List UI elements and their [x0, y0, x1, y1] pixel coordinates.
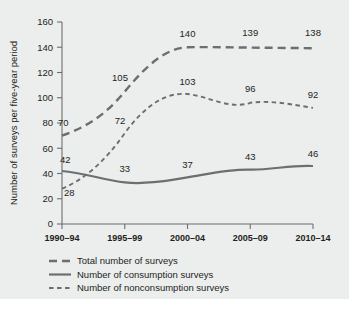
series-line-nonconsumption — [62, 94, 313, 189]
data-label-total-2010-14: 138 — [305, 27, 321, 38]
series-line-total — [62, 47, 313, 135]
data-label-consumption-1990-94: 42 — [60, 154, 71, 165]
x-tick-label-1995-99: 1995–99 — [107, 233, 142, 243]
y-tick-label-20: 20 — [42, 193, 53, 204]
data-label-consumption-2005-09: 43 — [245, 151, 256, 162]
y-tick-label-40: 40 — [42, 168, 53, 179]
data-label-noncons-1990-94: 28 — [64, 187, 75, 198]
y-tick-label-160: 160 — [37, 16, 53, 27]
x-tick-label-2010-14: 2010–14 — [295, 233, 330, 243]
data-label-consumption-2010-14: 46 — [308, 148, 319, 159]
x-axis-tick-labels: 1990–94 1995–99 2000–04 2005–09 2010–14 — [44, 233, 330, 243]
data-label-noncons-2010-14: 92 — [308, 89, 319, 100]
legend-label-consumption: Number of consumption surveys — [77, 269, 213, 280]
legend-item-total[interactable]: Total number of surveys — [49, 255, 178, 266]
x-axis-ticks — [62, 224, 313, 229]
legend-item-nonconsumption[interactable]: Number of nonconsumption surveys — [49, 282, 229, 293]
y-tick-label-120: 120 — [37, 67, 53, 78]
x-tick-label-2005-09: 2005–09 — [233, 233, 268, 243]
data-label-noncons-2000-04: 103 — [180, 76, 196, 87]
y-tick-label-0: 0 — [48, 218, 53, 229]
data-label-consumption-1995-99: 33 — [119, 163, 130, 174]
chart-legend: Total number of surveys Number of consum… — [49, 255, 229, 293]
x-tick-label-2000-04: 2000–04 — [170, 233, 205, 243]
chart-figure: 0 20 40 60 80 100 120 140 160 1990–94 19… — [0, 0, 349, 314]
data-label-total-1990-94: 70 — [58, 117, 69, 128]
data-label-total-1995-99: 105 — [112, 72, 128, 83]
y-tick-label-140: 140 — [37, 42, 53, 53]
y-tick-label-60: 60 — [42, 143, 53, 154]
legend-item-consumption[interactable]: Number of consumption surveys — [49, 269, 213, 280]
data-label-noncons-1995-99: 72 — [115, 115, 126, 126]
y-axis-tick-labels: 0 20 40 60 80 100 120 140 160 — [37, 16, 53, 229]
line-chart: 0 20 40 60 80 100 120 140 160 1990–94 19… — [0, 0, 349, 314]
data-label-total-2000-04: 140 — [180, 28, 196, 39]
data-label-total-2005-09: 139 — [242, 27, 258, 38]
y-tick-label-100: 100 — [37, 92, 53, 103]
data-labels-nonconsumption: 28 72 103 96 92 — [64, 76, 318, 198]
y-tick-label-80: 80 — [42, 117, 53, 128]
legend-label-nonconsumption: Number of nonconsumption surveys — [77, 282, 229, 293]
data-labels-consumption: 42 33 37 43 46 — [60, 148, 318, 174]
data-label-noncons-2005-09: 96 — [245, 83, 256, 94]
legend-label-total: Total number of surveys — [77, 255, 178, 266]
y-axis-title: Number of surveys per five-year period — [8, 41, 19, 205]
data-label-consumption-2000-04: 37 — [182, 159, 193, 170]
x-tick-label-1990-94: 1990–94 — [44, 233, 79, 243]
